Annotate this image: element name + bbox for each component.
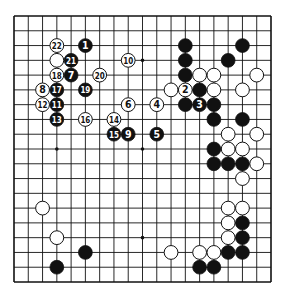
black-stone xyxy=(236,231,250,245)
white-stone xyxy=(193,246,207,260)
black-stone xyxy=(236,216,250,230)
black-stone-disc xyxy=(178,53,192,67)
black-stone xyxy=(207,142,221,156)
white-stone xyxy=(250,68,264,82)
white-stone-disc xyxy=(207,246,221,260)
move-10-white-stone: 10 xyxy=(121,53,135,67)
white-stone-disc xyxy=(236,172,250,186)
black-stone-disc xyxy=(178,98,192,112)
move-4-white-stone: 4 xyxy=(150,98,164,112)
white-stone-disc xyxy=(193,68,207,82)
move-2-white-stone: 2 xyxy=(178,83,192,97)
star-point xyxy=(141,236,145,240)
white-stone-disc xyxy=(221,231,235,245)
white-stone-disc xyxy=(236,83,250,97)
black-stone-disc xyxy=(207,98,221,112)
move-number-label: 22 xyxy=(52,41,62,51)
black-stone-disc xyxy=(193,83,207,97)
white-stone xyxy=(221,201,235,215)
white-stone xyxy=(50,231,64,245)
black-stone-disc xyxy=(221,53,235,67)
move-17-black-stone: 17 xyxy=(50,83,64,97)
white-stone-disc xyxy=(236,201,250,215)
move-number-label: 6 xyxy=(125,98,132,110)
black-stone xyxy=(207,98,221,112)
white-stone xyxy=(236,83,250,97)
black-stone xyxy=(221,53,235,67)
move-12-white-stone: 12 xyxy=(36,98,50,112)
move-number-label: 7 xyxy=(68,69,75,81)
black-stone-disc xyxy=(236,246,250,260)
move-14-white-stone: 14 xyxy=(107,113,121,127)
white-stone-disc xyxy=(236,142,250,156)
white-stone xyxy=(221,216,235,230)
black-stone xyxy=(221,246,235,260)
move-18-white-stone: 18 xyxy=(50,68,64,82)
move-number-label: 17 xyxy=(52,85,62,95)
black-stone xyxy=(221,157,235,171)
move-11-black-stone: 11 xyxy=(50,98,64,112)
white-stone-disc xyxy=(164,83,178,97)
black-stone-disc xyxy=(207,142,221,156)
black-stone-disc xyxy=(178,39,192,53)
white-stone-disc xyxy=(221,216,235,230)
black-stone-disc xyxy=(236,113,250,127)
white-stone-disc xyxy=(250,127,264,141)
black-stone-disc xyxy=(236,216,250,230)
star-point xyxy=(141,147,145,151)
black-stone xyxy=(178,39,192,53)
move-16-white-stone: 16 xyxy=(78,113,92,127)
white-stone xyxy=(207,68,221,82)
black-stone xyxy=(236,113,250,127)
white-stone xyxy=(221,142,235,156)
move-19-black-stone: 19 xyxy=(78,83,92,97)
black-stone-disc xyxy=(207,260,221,274)
move-number-label: 14 xyxy=(109,115,119,125)
white-stone-disc xyxy=(50,53,64,67)
move-7-black-stone: 7 xyxy=(64,68,78,82)
black-stone xyxy=(236,246,250,260)
move-3-black-stone: 3 xyxy=(193,98,207,112)
white-stone xyxy=(193,68,207,82)
white-stone xyxy=(164,246,178,260)
move-number-label: 4 xyxy=(153,98,160,110)
white-stone-disc xyxy=(36,201,50,215)
black-stone-disc xyxy=(221,157,235,171)
go-board: 12345678910111213141516171819202122 xyxy=(0,0,282,295)
black-stone xyxy=(236,157,250,171)
move-number-label: 1 xyxy=(82,39,89,51)
black-stone xyxy=(193,260,207,274)
move-number-label: 12 xyxy=(38,100,48,110)
black-stone xyxy=(207,260,221,274)
move-21-black-stone: 21 xyxy=(64,53,78,67)
white-stone-disc xyxy=(207,68,221,82)
move-number-label: 9 xyxy=(125,128,132,140)
white-stone xyxy=(221,127,235,141)
white-stone-disc xyxy=(50,231,64,245)
move-number-label: 2 xyxy=(182,83,189,95)
move-number-label: 18 xyxy=(52,71,62,81)
black-stone xyxy=(50,260,64,274)
move-number-label: 8 xyxy=(39,83,46,95)
white-stone xyxy=(250,157,264,171)
black-stone-disc xyxy=(50,260,64,274)
black-stone-disc xyxy=(221,246,235,260)
white-stone xyxy=(164,83,178,97)
black-stone-disc xyxy=(236,231,250,245)
move-9-black-stone: 9 xyxy=(121,127,135,141)
black-stone xyxy=(207,113,221,127)
move-1-black-stone: 1 xyxy=(78,39,92,53)
white-stone-disc xyxy=(193,246,207,260)
black-stone xyxy=(178,53,192,67)
move-8-white-stone: 8 xyxy=(36,83,50,97)
white-stone-disc xyxy=(207,83,221,97)
white-stone xyxy=(50,53,64,67)
white-stone xyxy=(221,231,235,245)
white-stone xyxy=(250,127,264,141)
white-stone-disc xyxy=(250,157,264,171)
move-number-label: 19 xyxy=(80,85,90,95)
move-13-black-stone: 13 xyxy=(50,113,64,127)
black-stone xyxy=(193,83,207,97)
black-stone xyxy=(178,68,192,82)
black-stone-disc xyxy=(236,157,250,171)
